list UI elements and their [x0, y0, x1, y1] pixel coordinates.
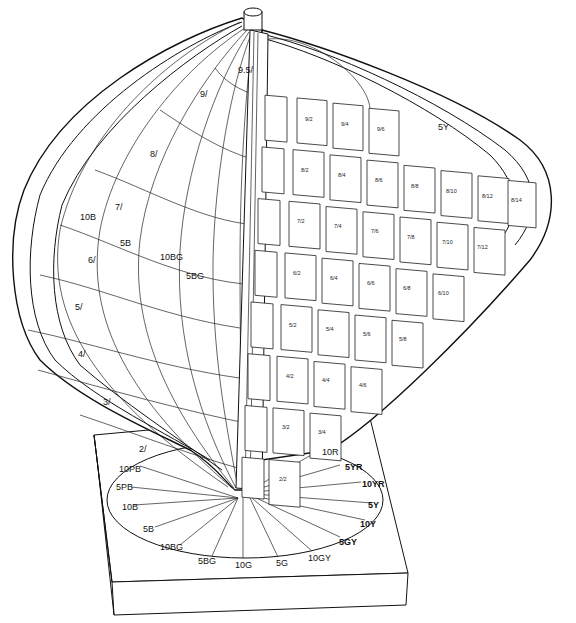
svg-text:8/4: 8/4	[338, 172, 346, 178]
svg-text:7/8: 7/8	[407, 234, 415, 240]
svg-text:5B: 5B	[143, 524, 154, 534]
svg-text:10B: 10B	[80, 212, 96, 222]
svg-text:6/4: 6/4	[330, 275, 338, 281]
svg-text:10PB: 10PB	[119, 464, 141, 474]
svg-text:9.5/: 9.5/	[238, 65, 254, 75]
svg-text:5/: 5/	[75, 302, 83, 312]
svg-text:7/12: 7/12	[477, 244, 488, 250]
svg-text:8/12: 8/12	[482, 193, 493, 199]
svg-text:10R: 10R	[322, 447, 339, 457]
svg-text:8/14: 8/14	[511, 197, 522, 203]
svg-text:5Y: 5Y	[368, 500, 379, 510]
svg-text:7/10: 7/10	[442, 239, 453, 245]
svg-text:9/4: 9/4	[341, 121, 349, 127]
munsell-solid-diagram: 9/2 9/4 9/6 8/2 8/4 8/6 8/8 8/10 8/12 8/…	[0, 0, 576, 623]
svg-text:4/: 4/	[78, 349, 86, 359]
svg-text:5BG: 5BG	[198, 556, 216, 566]
solid-left-half	[13, 18, 262, 490]
svg-text:5YR: 5YR	[345, 462, 363, 472]
svg-text:6/2: 6/2	[293, 270, 301, 276]
svg-text:10B: 10B	[122, 502, 138, 512]
svg-text:5G: 5G	[276, 558, 288, 568]
svg-text:10Y: 10Y	[360, 519, 376, 529]
svg-text:4/6: 4/6	[359, 382, 367, 388]
svg-text:5B: 5B	[120, 238, 131, 248]
svg-text:7/6: 7/6	[371, 228, 379, 234]
hue-page-label: 5Y	[438, 122, 449, 132]
svg-text:6/: 6/	[88, 255, 96, 265]
svg-text:10GY: 10GY	[308, 553, 331, 563]
svg-text:2/2: 2/2	[279, 476, 287, 482]
svg-text:5/8: 5/8	[399, 336, 407, 342]
svg-text:3/2: 3/2	[282, 424, 290, 430]
svg-text:5/6: 5/6	[363, 331, 371, 337]
svg-text:10BG: 10BG	[160, 252, 183, 262]
svg-text:6/6: 6/6	[367, 280, 375, 286]
svg-text:5/4: 5/4	[326, 326, 334, 332]
svg-text:5GY: 5GY	[339, 537, 357, 547]
svg-text:6/10: 6/10	[438, 290, 449, 296]
svg-text:2/: 2/	[139, 444, 147, 454]
svg-text:8/6: 8/6	[375, 177, 383, 183]
svg-text:7/: 7/	[115, 202, 123, 212]
svg-text:8/10: 8/10	[446, 188, 457, 194]
svg-text:8/: 8/	[150, 149, 158, 159]
svg-text:8/8: 8/8	[411, 183, 419, 189]
svg-text:7/4: 7/4	[334, 223, 342, 229]
svg-text:5/2: 5/2	[289, 322, 297, 328]
svg-text:5BG: 5BG	[186, 271, 204, 281]
svg-text:7/2: 7/2	[297, 218, 305, 224]
svg-text:6/8: 6/8	[403, 285, 411, 291]
svg-text:10BG: 10BG	[160, 542, 183, 552]
svg-text:10G: 10G	[235, 560, 252, 570]
svg-text:4/4: 4/4	[322, 377, 330, 383]
svg-text:9/: 9/	[200, 89, 208, 99]
svg-text:8/2: 8/2	[301, 167, 309, 173]
svg-text:5PB: 5PB	[116, 482, 133, 492]
svg-text:9/6: 9/6	[377, 126, 385, 132]
svg-text:3/: 3/	[103, 397, 111, 407]
svg-text:9/2: 9/2	[305, 116, 313, 122]
svg-text:3/4: 3/4	[318, 429, 326, 435]
svg-text:4/2: 4/2	[286, 373, 294, 379]
svg-text:10YR: 10YR	[362, 479, 385, 489]
